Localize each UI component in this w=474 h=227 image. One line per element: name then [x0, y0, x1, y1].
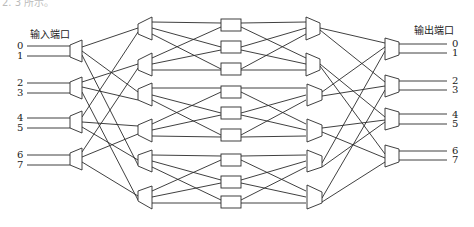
output-switch-0: [385, 38, 399, 60]
input-port-label: 7: [17, 160, 23, 170]
output-switch-2: [385, 108, 399, 130]
input-switch-0: [70, 40, 82, 62]
wires-stage1-stage2: [82, 28, 138, 200]
output-switch-3: [385, 145, 399, 167]
wires-stage4-stage5: [320, 28, 385, 202]
output-ports-title: 输出端口: [414, 22, 454, 37]
input-lines: [27, 46, 70, 165]
output-stage-switches: [385, 38, 399, 167]
input-switch-1: [70, 77, 82, 99]
output-switch-1: [385, 75, 399, 97]
input-port-label: 5: [17, 123, 23, 133]
output-lines: [399, 44, 447, 160]
input-port-label: 1: [17, 51, 23, 61]
input-switch-2: [70, 111, 82, 133]
output-port-label: 5: [452, 119, 458, 129]
stage4-switches: [306, 17, 322, 209]
output-port-label: 3: [452, 85, 458, 95]
wires-stage2-middle: [152, 22, 221, 203]
wires-middle-stage4: [241, 22, 306, 203]
output-port-label: 1: [452, 48, 458, 58]
middle-stage-switches: [221, 19, 241, 208]
output-port-label: 7: [452, 155, 458, 165]
input-switch-3: [70, 148, 82, 170]
input-stage-switches: [70, 40, 82, 170]
input-ports-title: 输入端口: [30, 26, 70, 41]
stage2-switches: [138, 17, 152, 209]
network-diagram: [0, 0, 474, 227]
input-port-label: 3: [17, 88, 23, 98]
